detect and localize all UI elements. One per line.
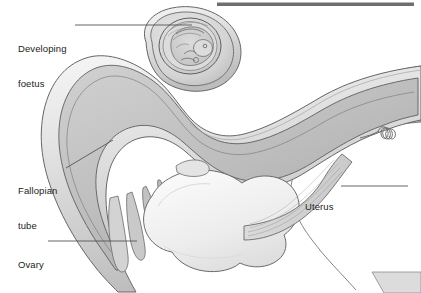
label-uterus: Uterus: [305, 178, 334, 236]
label-developing-foetus-line2: foetus: [18, 78, 67, 90]
amniotic-sac: [159, 18, 221, 74]
ovary-lobe: [176, 160, 209, 177]
label-developing-foetus: Developing foetus: [18, 20, 67, 112]
top-bar: [217, 3, 414, 7]
label-uterus-line1: Uterus: [305, 201, 334, 213]
uterine-lower-corner: [372, 272, 421, 293]
label-ovary: Ovary: [18, 236, 44, 293]
label-ovary-line1: Ovary: [18, 259, 44, 271]
foetus-head: [194, 40, 213, 57]
anatomical-illustration: Developing foetus Fallopian tube Ovary U…: [0, 0, 421, 293]
label-developing-foetus-line1: Developing: [18, 43, 67, 55]
fimbria-2: [127, 192, 146, 260]
label-fallopian-tube-line2: tube: [18, 220, 57, 232]
label-fallopian-tube-line1: Fallopian: [18, 185, 57, 197]
